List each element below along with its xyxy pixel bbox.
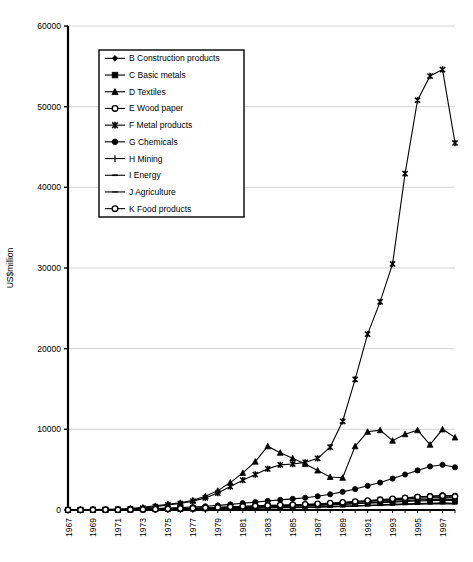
- data-point: [452, 140, 457, 146]
- data-point: [165, 506, 170, 511]
- chart-root: 0100002000030000400005000060000 19671969…: [0, 0, 473, 562]
- y-tick-label: 20000: [37, 344, 61, 354]
- data-point: [253, 471, 258, 477]
- data-point: [402, 495, 407, 500]
- data-point: [112, 106, 118, 112]
- y-tick-label: 40000: [37, 182, 61, 192]
- data-point: [112, 72, 118, 78]
- data-point: [228, 504, 233, 509]
- data-point: [340, 500, 345, 505]
- data-point: [415, 427, 421, 433]
- data-point: [340, 489, 345, 494]
- x-tick-label: 1969: [88, 518, 98, 537]
- data-point: [303, 495, 308, 500]
- data-point: [440, 493, 445, 498]
- y-tick-label: 0: [56, 505, 61, 515]
- data-point: [178, 506, 183, 511]
- data-point: [112, 139, 118, 145]
- data-point: [290, 502, 295, 507]
- y-tick-label: 60000: [37, 21, 61, 31]
- data-point: [78, 507, 83, 512]
- data-point: [277, 450, 283, 456]
- y-tick-label: 10000: [37, 424, 61, 434]
- legend-label: G Chemicals: [129, 137, 178, 147]
- data-point: [228, 483, 233, 489]
- y-axis-tick-labels: 0100002000030000400005000060000: [37, 21, 61, 515]
- series-line: [68, 429, 455, 509]
- x-tick-label: 1971: [113, 518, 123, 537]
- data-point: [290, 455, 296, 461]
- legend-label: D Textiles: [129, 87, 166, 97]
- data-point: [377, 480, 382, 485]
- legend-label: B Construction products: [129, 53, 220, 63]
- x-tick-label: 1967: [64, 518, 74, 537]
- y-tick-label: 30000: [37, 263, 61, 273]
- data-point: [427, 464, 432, 469]
- legend-label: E Wood paper: [129, 103, 183, 113]
- legend-label: I Energy: [129, 170, 161, 180]
- data-point: [328, 492, 333, 497]
- data-point: [452, 434, 458, 440]
- data-point: [427, 494, 432, 499]
- y-tick-label: 50000: [37, 102, 61, 112]
- x-tick-label: 1987: [313, 518, 323, 537]
- data-point: [440, 66, 445, 72]
- legend-label: J Agriculture: [129, 187, 176, 197]
- data-point: [452, 465, 457, 470]
- data-point: [402, 170, 407, 176]
- data-point: [65, 507, 70, 512]
- data-point: [377, 497, 382, 502]
- data-point: [353, 486, 358, 491]
- data-point: [240, 504, 245, 509]
- data-point: [353, 376, 358, 382]
- data-point: [265, 503, 270, 508]
- x-tick-label: 1995: [413, 518, 423, 537]
- data-point: [215, 505, 220, 510]
- data-point: [140, 507, 145, 512]
- data-point: [153, 507, 158, 512]
- y-axis-title-text: US$million: [5, 247, 15, 288]
- x-tick-label: 1979: [213, 518, 223, 537]
- chart-legend: B Construction productsC Basic metalsD T…: [99, 50, 244, 217]
- x-tick-label: 1981: [238, 518, 248, 537]
- data-point: [265, 466, 270, 472]
- data-point: [390, 496, 395, 501]
- x-tick-label: 1997: [438, 518, 448, 537]
- data-point: [203, 505, 208, 510]
- data-point: [415, 494, 420, 499]
- data-point: [340, 418, 345, 424]
- x-tick-label: 1989: [338, 518, 348, 537]
- data-point: [315, 501, 320, 506]
- legend-label: H Mining: [129, 154, 163, 164]
- data-point: [452, 494, 457, 499]
- data-point: [427, 73, 432, 79]
- line-chart: 0100002000030000400005000060000 19671969…: [0, 0, 473, 562]
- data-point: [328, 500, 333, 505]
- data-point: [315, 467, 321, 473]
- data-point: [315, 494, 320, 499]
- x-tick-label: 1993: [388, 518, 398, 537]
- x-tick-label: 1991: [363, 518, 373, 537]
- x-tick-label: 1977: [188, 518, 198, 537]
- data-point: [377, 299, 382, 305]
- data-point: [365, 498, 370, 503]
- legend-label: C Basic metals: [129, 70, 186, 80]
- data-point: [115, 507, 120, 512]
- data-point: [402, 472, 407, 477]
- data-point: [253, 503, 258, 508]
- x-tick-label: 1983: [263, 518, 273, 537]
- x-tick-label: 1973: [138, 518, 148, 537]
- data-point: [278, 497, 283, 502]
- x-tick-label: 1975: [163, 518, 173, 537]
- data-point: [390, 476, 395, 481]
- data-point: [353, 499, 358, 504]
- data-point: [303, 502, 308, 507]
- data-point: [328, 444, 333, 450]
- data-point: [190, 506, 195, 511]
- y-axis-title: US$million: [5, 247, 15, 288]
- data-point: [365, 331, 370, 337]
- data-point: [415, 468, 420, 473]
- data-point: [290, 496, 295, 501]
- data-point: [265, 443, 271, 449]
- legend-label: K Food products: [129, 204, 191, 214]
